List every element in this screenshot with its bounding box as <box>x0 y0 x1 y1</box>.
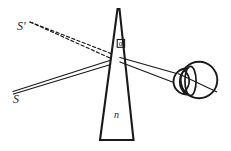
refractive-index-label: n <box>114 109 119 120</box>
prism-refraction-figure: α n S' S <box>0 0 231 151</box>
point-labels: S' S <box>13 19 26 106</box>
incident-ray-lower <box>14 62 120 94</box>
virtual-ray-upper <box>30 22 120 57</box>
eyeball-globe <box>181 62 218 99</box>
virtual-ray-bundle <box>30 22 120 63</box>
incident-ray-bundle <box>13 58 119 95</box>
source-label: S <box>13 92 19 106</box>
figure-canvas: α n S' S <box>0 0 231 151</box>
incident-ray-upper <box>13 58 119 92</box>
virtual-ray-lower <box>30 22 120 63</box>
human-eye <box>174 62 218 99</box>
triangular-prism: α n <box>100 9 134 140</box>
virtual-image-label: S' <box>17 19 26 33</box>
prism-outline <box>100 9 134 140</box>
